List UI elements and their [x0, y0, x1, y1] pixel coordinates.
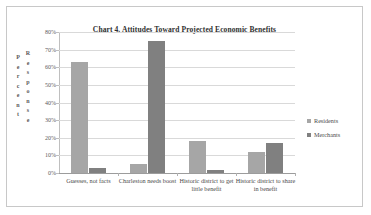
bar-residents-0: [71, 62, 88, 173]
y-title-percent-char-6: t: [13, 110, 23, 120]
chart-legend: ResidentsMerchants: [307, 117, 340, 145]
y-axis-tick-label-70: 70%: [26, 47, 56, 53]
x-axis-category-label-2: Historic district to get little benefit: [174, 177, 239, 193]
x-axis-tick-2: [177, 173, 178, 176]
legend-label-merchants: Merchants: [314, 131, 340, 138]
bar-merchants-2: [207, 170, 224, 173]
y-title-percent-char-2: r: [13, 72, 23, 82]
y-axis-tick-label-50: 50%: [26, 82, 56, 88]
y-title-percent-char-3: c: [13, 82, 23, 92]
bar-residents-3: [248, 152, 265, 173]
bar-residents-1: [130, 164, 147, 173]
gridline-50: [59, 85, 295, 86]
y-axis-tick-0: [56, 173, 59, 174]
y-axis-tick-50: [56, 85, 59, 86]
y-title-percent-char-0: P: [13, 53, 23, 63]
x-axis-category-label-3: Historic district to share in benefit: [233, 177, 298, 193]
y-axis-tick-label-10: 10%: [26, 152, 56, 158]
x-axis-tick-1: [118, 173, 119, 176]
legend-label-residents: Residents: [314, 117, 338, 124]
gridline-30: [59, 120, 295, 121]
x-axis-category-label-1: Charleston needs boost: [115, 177, 180, 185]
x-axis-tick-3: [236, 173, 237, 176]
y-title-percent-char-5: n: [13, 101, 23, 111]
y-axis-title-percent: Percent: [13, 53, 23, 120]
y-axis-tick-60: [56, 67, 59, 68]
bar-merchants-0: [89, 168, 106, 173]
y-axis-tick-40: [56, 103, 59, 104]
chart-container: Percent Response Chart 4. Attitudes Towa…: [6, 6, 363, 207]
y-axis-tick-label-0: 0%: [26, 170, 56, 176]
legend-item-merchants[interactable]: Merchants: [307, 131, 340, 138]
y-axis-tick-80: [56, 32, 59, 33]
legend-swatch-icon-residents: [307, 119, 311, 123]
bar-merchants-1: [148, 41, 165, 173]
gridline-70: [59, 50, 295, 51]
gridline-80: [59, 32, 295, 33]
y-title-percent-char-1: e: [13, 63, 23, 73]
legend-item-residents[interactable]: Residents: [307, 117, 340, 124]
x-axis-tick-end: [295, 173, 296, 176]
y-axis-tick-label-60: 60%: [26, 64, 56, 70]
y-title-percent-char-4: e: [13, 91, 23, 101]
gridline-60: [59, 67, 295, 68]
plot-area: [59, 32, 295, 173]
y-axis-tick-30: [56, 120, 59, 121]
gridline-20: [59, 138, 295, 139]
y-axis-labels: 0%10%20%30%40%50%60%70%80%: [23, 32, 56, 173]
y-axis-tick-label-20: 20%: [26, 135, 56, 141]
gridline-40: [59, 103, 295, 104]
bar-merchants-3: [266, 143, 283, 173]
y-axis-tick-10: [56, 155, 59, 156]
legend-swatch-icon-merchants: [307, 133, 311, 137]
y-axis-tick-label-40: 40%: [26, 100, 56, 106]
bar-residents-2: [189, 141, 206, 173]
x-axis-category-label-0: Guesses, not facts: [56, 177, 121, 185]
y-axis-tick-label-80: 80%: [26, 29, 56, 35]
y-axis-tick-label-30: 30%: [26, 117, 56, 123]
y-axis-tick-20: [56, 138, 59, 139]
y-axis-tick-70: [56, 50, 59, 51]
